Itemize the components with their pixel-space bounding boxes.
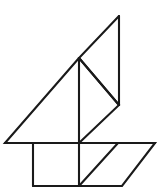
tangram-sailboat-figure: Tangram sailboat line drawing (0, 0, 161, 192)
figure-background (0, 0, 161, 192)
